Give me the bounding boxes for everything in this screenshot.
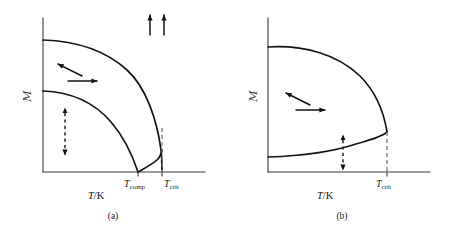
panel-b-axes (268, 18, 430, 172)
panel-b-lower-branch (268, 132, 387, 157)
panel-b-caption: (b) (336, 211, 347, 222)
panel-a: M Tcomp Tcrit T/K (a) (21, 15, 205, 222)
panel-a-tick-label-comp: Tcomp (124, 178, 146, 191)
x-axis-unit: /K (323, 190, 334, 201)
panel-b: M Tcrit T/K (b) (247, 18, 430, 222)
panel-a-y-axis-label: M (21, 90, 34, 103)
panel-b-upper-branch (268, 47, 387, 132)
panel-b-tick-label-crit: Tcrit (376, 178, 391, 191)
panel-a-tick-label-crit: Tcrit (164, 178, 179, 191)
figure-root: M Tcomp Tcrit T/K (a) (0, 0, 453, 230)
tick-comp-subscript: comp (130, 183, 146, 191)
diagonal-up-left-arrow (58, 64, 82, 76)
tick-crit-subscript: crit (170, 183, 179, 191)
tick-crit-subscript: crit (382, 183, 391, 191)
panel-b-direction-arrows (286, 93, 325, 110)
magnetization-temperature-figure: M Tcomp Tcrit T/K (a) (0, 0, 453, 230)
x-axis-unit: /K (94, 190, 105, 201)
panel-a-upper-branch (43, 40, 162, 170)
panel-a-direction-arrows (58, 64, 97, 81)
panel-a-net-branch (138, 150, 162, 172)
panel-a-lower-branch (43, 91, 138, 172)
panel-b-y-axis-label: M (247, 90, 260, 103)
panel-a-parallel-spin-arrows (150, 15, 164, 35)
diagonal-up-left-arrow (286, 93, 310, 105)
panel-a-x-axis-title: T/K (88, 190, 105, 201)
panel-a-caption: (a) (108, 211, 119, 222)
panel-b-x-axis-title: T/K (317, 190, 334, 201)
